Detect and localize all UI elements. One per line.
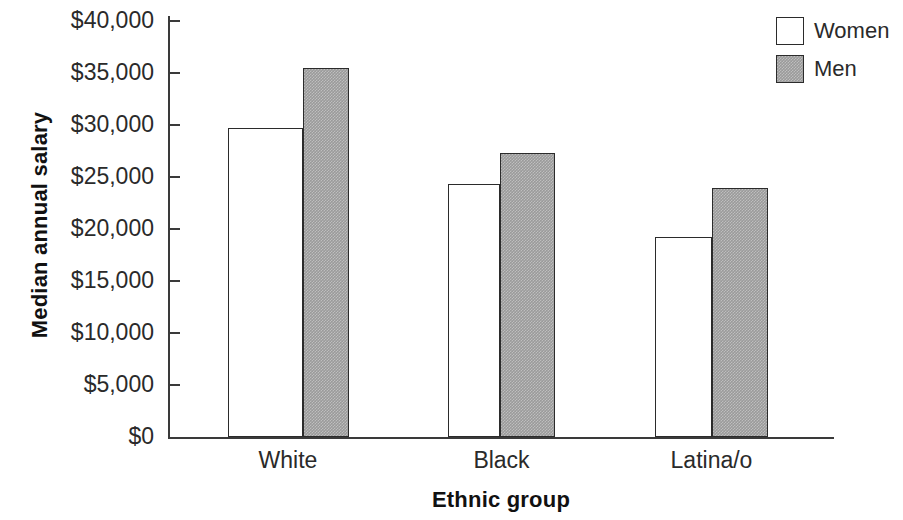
bar-men-latinao — [712, 188, 768, 437]
x-axis-title: Ethnic group — [168, 487, 834, 513]
bar-chart: Median annual salary $40,000 $35,000 $30… — [0, 0, 903, 520]
gray-square-swatch-icon — [776, 55, 804, 83]
legend-label-women: Women — [814, 18, 889, 44]
legend-item-women: Women — [776, 12, 903, 50]
chart-legend: Women Men — [776, 12, 903, 88]
x-category-label-white: White — [228, 447, 348, 474]
plot-area — [0, 0, 903, 520]
x-category-label-black: Black — [448, 447, 555, 474]
bar-women-white — [228, 128, 303, 437]
bar-men-black — [500, 153, 555, 437]
bar-men-white — [303, 68, 349, 437]
bar-women-black — [448, 184, 500, 437]
x-category-label-latinao: Latina/o — [655, 447, 768, 474]
bar-women-latinao — [655, 237, 712, 437]
white-square-swatch-icon — [776, 17, 804, 45]
legend-item-men: Men — [776, 50, 903, 88]
legend-label-men: Men — [814, 56, 857, 82]
